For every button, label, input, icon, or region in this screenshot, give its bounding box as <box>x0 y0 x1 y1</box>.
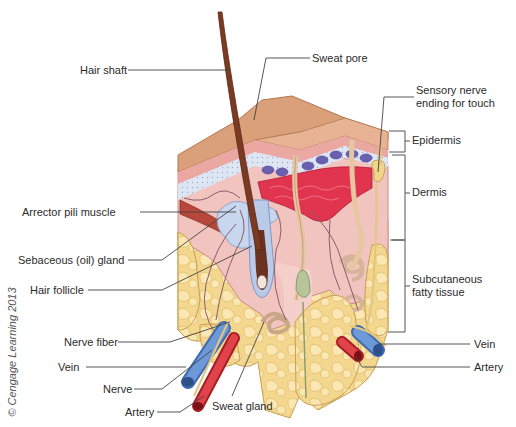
skin-diagram: Hair shaft Sweat pore Sensory nerve endi… <box>0 0 516 427</box>
label-hair-follicle: Hair follicle <box>30 284 84 297</box>
label-sweat-pore: Sweat pore <box>312 52 368 65</box>
label-nerve-fiber: Nerve fiber <box>64 336 118 349</box>
label-sensory-nerve-ending: Sensory nerve ending for touch <box>416 84 512 110</box>
label-dermis: Dermis <box>412 186 447 199</box>
copyright-notice: © Cengage Learning 2013 <box>6 282 18 422</box>
label-nerve: Nerve <box>103 383 132 396</box>
label-vein-right: Vein <box>474 338 495 351</box>
label-artery-left: Artery <box>125 406 154 419</box>
label-subcutaneous-fatty-tissue: Subcutaneous fatty tissue <box>412 273 502 299</box>
label-arrector-pili-muscle: Arrector pili muscle <box>22 206 116 219</box>
label-epidermis: Epidermis <box>412 134 461 147</box>
label-sebaceous-gland: Sebaceous (oil) gland <box>18 254 124 267</box>
label-vein-left: Vein <box>58 361 79 374</box>
label-artery-right: Artery <box>474 361 503 374</box>
label-hair-shaft: Hair shaft <box>80 64 127 77</box>
layer-brackets <box>388 131 410 332</box>
label-sweat-gland: Sweat gland <box>212 400 273 413</box>
